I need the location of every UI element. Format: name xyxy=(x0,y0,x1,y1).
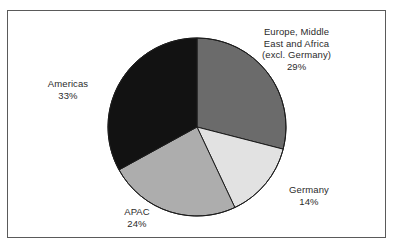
slice-label-emea-line2: East and Africa xyxy=(262,38,331,50)
pie-chart-figure: Europe, Middle East and Africa (excl. Ge… xyxy=(0,0,393,251)
slice-label-germany-line1: Germany xyxy=(277,184,341,196)
slice-label-americas: Americas 33% xyxy=(30,78,106,101)
slice-value-americas: 33% xyxy=(30,90,106,102)
slice-label-germany: Germany 14% xyxy=(277,184,341,207)
slice-value-apac: 24% xyxy=(110,218,164,230)
slice-label-apac-line1: APAC xyxy=(110,206,164,218)
pie-chart-svg xyxy=(0,0,393,251)
slice-label-emea-line3: (excl. Germany) xyxy=(262,49,331,61)
pie-plot-area: Europe, Middle East and Africa (excl. Ge… xyxy=(0,0,393,251)
slice-label-americas-line1: Americas xyxy=(30,78,106,90)
slice-value-germany: 14% xyxy=(277,196,341,208)
slice-label-apac: APAC 24% xyxy=(110,206,164,229)
slice-value-emea: 29% xyxy=(262,61,331,73)
slice-label-emea: Europe, Middle East and Africa (excl. Ge… xyxy=(262,26,331,72)
slice-label-emea-line1: Europe, Middle xyxy=(262,26,331,38)
